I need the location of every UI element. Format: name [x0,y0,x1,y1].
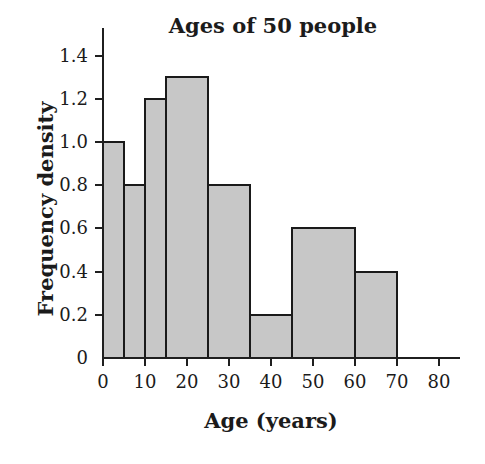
x-tick-label: 80 [417,372,461,392]
y-tick-label: 0 [0,347,88,369]
histogram-bar [103,142,124,358]
histogram-bar [166,77,208,358]
y-tick-label: 0.8 [0,174,88,196]
x-tick-label: 70 [375,372,419,392]
histogram-bar [292,228,355,358]
x-tick-label: 50 [291,372,335,392]
y-tick-label: 1.2 [0,88,88,110]
y-tick-label: 0.2 [0,304,88,326]
x-tick-label: 40 [249,372,293,392]
histogram-chart: Ages of 50 people Frequency density 00.2… [0,0,485,464]
x-axis-title: Age (years) [151,408,391,433]
x-tick-label: 10 [123,372,167,392]
x-tick-label: 60 [333,372,377,392]
y-tick-label: 0.6 [0,217,88,239]
histogram-bar [208,185,250,358]
y-tick-label: 1.0 [0,131,88,153]
x-tick-label: 20 [165,372,209,392]
histogram-bar [355,272,397,358]
x-tick-label: 30 [207,372,251,392]
histogram-bar [145,99,166,358]
histogram-bar [250,315,292,358]
y-tick-label: 1.4 [0,45,88,67]
y-tick-label: 0.4 [0,261,88,283]
x-tick-label: 0 [81,372,125,392]
histogram-bar [124,185,145,358]
